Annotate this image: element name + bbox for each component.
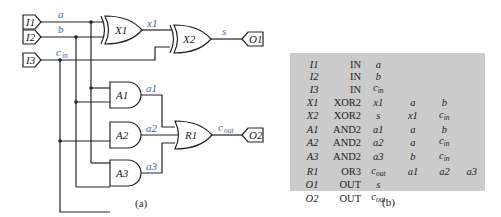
svg-text:I2: I2 [25,31,36,43]
svg-text:a2: a2 [146,122,158,134]
cell-type: XOR2 [318,109,361,124]
cell-in3 [459,82,485,97]
cell-out: cin [361,82,396,97]
svg-text:a3: a3 [146,160,158,172]
cell-in2 [430,82,458,97]
table-row: R1OR3couta1a2a3 [290,165,485,180]
gate-r1-or: R1 [175,121,212,149]
cell-in3 [459,97,485,109]
table-row: I1INa [290,59,485,71]
cell-out: a1 [361,124,396,136]
cell-in1: a [396,135,431,150]
svg-text:b: b [58,23,64,35]
cell-type: XOR2 [318,97,361,109]
cell-in2 [430,71,458,83]
gate-a2-and: A2 [110,122,141,148]
cell-name: O2 [290,191,318,206]
input-terminal-i2: I2 [23,30,41,44]
cell-in2: cin [430,135,458,150]
cell-in2: cin [430,109,458,124]
cell-out: a3 [361,150,396,165]
table-row: A3AND2a3bcin [290,150,485,165]
cell-type: AND2 [318,135,361,150]
cell-out: x1 [361,97,396,109]
cell-name: A1 [290,124,318,136]
cell-in2: a2 [430,165,458,180]
cell-name: X1 [290,97,318,109]
cell-name: O1 [290,179,318,191]
table-row: A2AND2a2acin [290,135,485,150]
svg-text:s: s [222,25,226,37]
bus-cin [60,60,110,212]
cell-type: OUT [318,179,361,191]
svg-text:A3: A3 [115,167,129,179]
cell-type: IN [318,59,361,71]
cell-in3 [459,109,485,124]
cell-type: AND2 [318,150,361,165]
cell-type: OUT [318,191,361,206]
netlist-table: I1INaI2INbI3INcinX1XOR2x1abX2XOR2sx1cinA… [290,53,485,191]
cell-in2 [430,179,458,191]
table-row: O1OUTs [290,179,485,191]
output-terminal-o1: O1 [242,32,263,46]
cell-out: a [361,59,396,71]
output-terminal-o2: O2 [242,128,263,142]
cell-in3 [459,71,485,83]
svg-text:a: a [58,8,64,20]
caption-a: (a) [135,197,148,210]
table-row: X2XOR2sx1cin [290,109,485,124]
svg-text:c: c [218,121,223,133]
cell-in1 [396,71,431,83]
svg-text:O2: O2 [249,129,263,141]
svg-text:A2: A2 [115,129,129,141]
cell-in1: a [396,124,431,136]
svg-text:out: out [224,126,235,135]
cell-in1: a [396,97,431,109]
table-row: I2INb [290,71,485,83]
cell-in3 [459,191,485,206]
cell-type: OR3 [318,165,361,180]
cell-in3 [459,135,485,150]
svg-text:in: in [62,51,68,60]
gate-a3-and: A3 [110,160,141,186]
gate-x1-xor: X1 [101,16,142,44]
cell-in1: x1 [396,109,431,124]
cell-in3 [459,150,485,165]
svg-text:X2: X2 [182,33,196,45]
cell-in3 [459,179,485,191]
cell-name: A2 [290,135,318,150]
cell-name: X2 [290,109,318,124]
svg-text:I3: I3 [25,54,36,66]
cell-type: AND2 [318,124,361,136]
cell-in3 [459,124,485,136]
input-terminal-i3: I3 [23,53,41,67]
cell-in1: a1 [396,165,431,180]
cell-in3 [459,59,485,71]
table-row: X1XOR2x1ab [290,97,485,109]
cell-in1: b [396,150,431,165]
cell-in2: b [430,97,458,109]
cell-name: I1 [290,59,318,71]
cell-in2 [430,59,458,71]
cell-in1 [396,191,431,206]
cell-in1 [396,59,431,71]
cell-in1 [396,179,431,191]
cell-out: a2 [361,135,396,150]
table-row: A1AND2a1ab [290,124,485,136]
cell-type: IN [318,71,361,83]
cell-in1 [396,82,431,97]
cell-name: I3 [290,82,318,97]
svg-text:R1: R1 [184,129,197,141]
gate-a1-and: A1 [110,82,141,108]
svg-text:I1: I1 [25,16,35,28]
cell-type: IN [318,82,361,97]
cell-out: cout [361,165,396,180]
svg-text:c: c [56,46,61,58]
cell-out: b [361,71,396,83]
table-row: I3INcin [290,82,485,97]
input-terminal-i1: I1 [23,15,41,29]
cell-name: A3 [290,150,318,165]
cell-in2 [430,191,458,206]
svg-text:X1: X1 [114,24,127,36]
cell-name: I2 [290,71,318,83]
